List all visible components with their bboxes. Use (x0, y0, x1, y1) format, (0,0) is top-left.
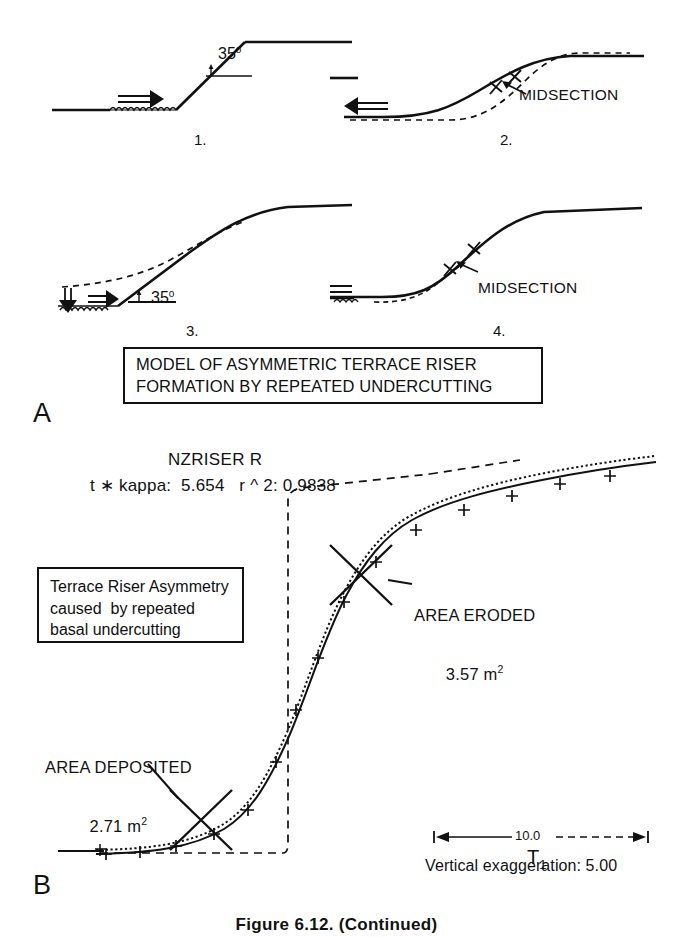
stage-2-midsection-label: MIDSECTION (519, 86, 618, 104)
figure-container: 35o 1. MIDSECTION 2. (0, 0, 673, 937)
scale-bar-length-label: 10.0 (513, 829, 542, 844)
flow-arrow-right-icon (118, 90, 164, 108)
stage-1-angle-label: 35o (218, 44, 241, 64)
stage-2-number: 2. (500, 131, 513, 148)
stage-2-profile-diagram (330, 28, 660, 133)
undercut-wave-symbol (334, 300, 358, 303)
stage-4-number: 4. (493, 322, 506, 339)
area-eroded-value: 3.57 m2 (414, 663, 535, 683)
stage-4-midsection-label: MIDSECTION (478, 279, 577, 297)
stage-3-angle-label: 35o (151, 288, 174, 308)
asymmetry-line-1: Terrace Riser Asymmetry (50, 576, 232, 598)
area-deposited-label: AREA DEPOSITED 2.71 m2 (45, 720, 192, 873)
stage-3-profile-diagram (40, 190, 360, 315)
area-deposited-value: 2.71 m2 (45, 815, 192, 835)
panel-b: NZRISER R t ∗ kappa: 5.654 r ^ 2: 0.9838 (0, 420, 673, 900)
flow-arrow-left-icon (330, 286, 352, 292)
angle-arrowhead (209, 64, 214, 69)
stage-3-number: 3. (186, 322, 199, 339)
incision-arrow-down-icon (59, 288, 77, 313)
area-deposited-title: AREA DEPOSITED (45, 758, 192, 777)
area-eroded-title: AREA ERODED (414, 606, 535, 625)
panel-b-letter: B (33, 870, 52, 901)
model-caption-line-1: MODEL OF ASYMMETRIC TERRACE RISER (125, 354, 541, 376)
area-eroded-label: AREA ERODED 3.57 m2 (414, 568, 535, 721)
model-caption-box: MODEL OF ASYMMETRIC TERRACE RISER FORMAT… (123, 347, 543, 404)
flow-arrow-left-icon (344, 97, 388, 115)
stage-1-profile-diagram (40, 28, 360, 133)
pre-undercut-profile-dashed (62, 221, 246, 287)
asymmetry-line-2: caused by repeated (50, 598, 232, 620)
figure-caption: Figure 6.12. (Continued) (0, 915, 673, 935)
stage-1-number: 1. (194, 131, 207, 148)
model-caption-line-2: FORMATION BY REPEATED UNDERCUTTING (125, 376, 541, 398)
asymmetry-line-3: basal undercutting (50, 619, 232, 641)
area-eroded-leader-line (388, 580, 412, 584)
vertical-exaggeration-label: Vertical exaggeration: 5.00 (425, 857, 617, 875)
panel-a: 35o 1. MIDSECTION 2. (0, 0, 673, 420)
area-eroded-crossing-marker (330, 545, 392, 605)
initial-tread-dashed (430, 460, 520, 474)
asymmetry-annotation-box: Terrace Riser Asymmetry caused by repeat… (37, 567, 244, 643)
